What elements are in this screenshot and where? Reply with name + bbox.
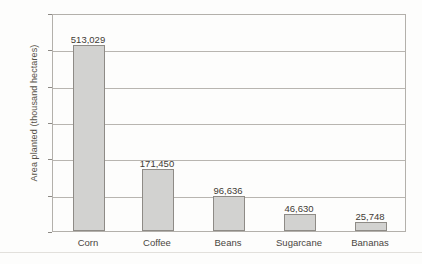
plot-area — [52, 14, 406, 232]
bar-coffee[interactable] — [142, 169, 174, 231]
bar-value-bananas: 25,748 — [355, 211, 384, 222]
y-axis-title: Area planted (thousand hectares) — [29, 13, 39, 213]
x-label-corn: Corn — [78, 237, 99, 248]
bar-sugarcane[interactable] — [284, 214, 316, 231]
gridline — [53, 88, 405, 89]
bar-value-corn: 513,029 — [71, 34, 105, 45]
bar-corn[interactable] — [73, 45, 105, 231]
bar-value-beans: 96,636 — [213, 185, 242, 196]
bar-value-coffee: 171,450 — [140, 158, 174, 169]
gridline — [53, 160, 405, 161]
x-label-sugarcane: Sugarcane — [276, 237, 322, 248]
bar-bananas[interactable] — [355, 222, 387, 231]
chart-canvas: Area planted (thousand hectares) 600 500… — [0, 0, 422, 264]
x-label-coffee: Coffee — [143, 237, 171, 248]
gridline — [53, 51, 405, 52]
page-divider-rule — [0, 252, 422, 253]
x-label-beans: Beans — [215, 237, 242, 248]
gridline — [53, 124, 405, 125]
bar-beans[interactable] — [213, 196, 245, 231]
x-label-bananas: Bananas — [351, 237, 389, 248]
bar-value-sugarcane: 46,630 — [284, 203, 313, 214]
y-tick-mark — [48, 232, 52, 233]
